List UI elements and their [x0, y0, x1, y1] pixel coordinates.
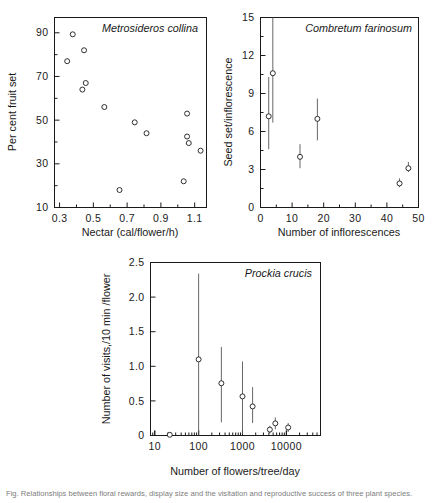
y-tick-label: 6 — [248, 125, 254, 137]
data-point — [117, 188, 122, 193]
data-point — [186, 141, 191, 146]
figure-container: 0.30.50.70.91.1 1030507090 Metrosideros … — [0, 0, 434, 503]
data-point — [102, 105, 107, 110]
data-point — [70, 32, 75, 37]
data-point — [406, 166, 411, 171]
data-point — [219, 381, 224, 386]
x-tick-label: 100 — [189, 440, 208, 452]
y-tick-label: 3 — [248, 163, 254, 175]
y-tick-label: 90 — [36, 26, 48, 38]
figure-caption: Fig. Relationships between floral reward… — [6, 489, 428, 501]
panel-c-title: Prockia crucis — [245, 267, 313, 279]
y-tick-label: 0 — [138, 429, 144, 441]
panel-c-tickmarks — [151, 263, 321, 436]
data-point — [144, 131, 149, 136]
panel-c-x-tick-labels: 10100100010000 — [149, 440, 302, 452]
panel-b-x-tick-labels: 01020304050 — [257, 212, 424, 224]
panel-c-x-axis-title: Number of flowers/tree/day — [170, 465, 300, 477]
panel-c-svg: 10100100010000 00.51.01.52.02.5 Prockia … — [88, 240, 348, 490]
x-tick-label: 0.9 — [153, 212, 169, 224]
x-tick-label: 0 — [257, 212, 263, 224]
x-tick-label: 10 — [286, 212, 298, 224]
x-tick-label: 30 — [349, 212, 361, 224]
y-tick-label: 12 — [242, 49, 254, 61]
panel-a-y-axis-title: Per cent fruit set — [6, 73, 18, 152]
panel-b-plot-frame — [261, 18, 419, 208]
panel-metrosideros-collina: 0.30.50.70.91.1 1030507090 Metrosideros … — [0, 0, 222, 240]
data-point — [181, 179, 186, 184]
data-point — [397, 181, 402, 186]
panel-c-data-points — [167, 274, 290, 438]
panel-a-x-axis-title: Nectar (cal/flower/h) — [82, 226, 179, 238]
panel-a-data-points — [65, 32, 203, 193]
panel-c-y-axis-title: Number of visits,/10 min /flower — [100, 273, 112, 424]
data-point — [270, 71, 275, 76]
panel-b-svg: 01020304050 03691215 Combretum farinosum… — [218, 0, 434, 240]
x-tick-label: 10000 — [271, 440, 302, 452]
panel-a-y-tick-labels: 1030507090 — [36, 26, 48, 213]
panel-b-title: Combretum farinosum — [305, 22, 412, 34]
panel-b-data-points — [266, 18, 411, 188]
data-point — [132, 120, 137, 125]
data-point — [185, 134, 190, 139]
y-tick-label: 0 — [248, 201, 254, 213]
x-tick-label: 0.5 — [85, 212, 101, 224]
y-tick-label: 30 — [36, 157, 48, 169]
data-point — [198, 148, 203, 153]
x-tick-label: 20 — [317, 212, 329, 224]
x-tick-label: 1000 — [230, 440, 255, 452]
data-point — [82, 48, 87, 53]
y-tick-label: 2.0 — [129, 291, 145, 303]
panel-c-y-tick-labels: 00.51.01.52.02.5 — [129, 256, 145, 441]
y-tick-label: 50 — [36, 114, 48, 126]
panel-a-title: Metrosideros collina — [102, 22, 198, 34]
data-point — [167, 432, 172, 437]
x-tick-label: 1.1 — [187, 212, 203, 224]
data-point — [266, 114, 271, 119]
panel-a-svg: 0.30.50.70.91.1 1030507090 Metrosideros … — [0, 0, 222, 240]
data-point — [315, 116, 320, 121]
data-point — [83, 81, 88, 86]
data-point — [250, 404, 255, 409]
y-tick-label: 15 — [242, 11, 254, 23]
panel-a-tickmarks — [55, 33, 195, 208]
y-tick-label: 1.5 — [129, 325, 145, 337]
x-tick-label: 0.7 — [119, 212, 135, 224]
data-point — [298, 154, 303, 159]
data-point — [80, 87, 85, 92]
data-point — [196, 357, 201, 362]
data-point — [273, 421, 278, 426]
panel-b-y-tick-labels: 03691215 — [242, 11, 254, 213]
y-tick-label: 10 — [36, 201, 48, 213]
y-tick-label: 0.5 — [129, 395, 145, 407]
x-tick-label: 50 — [412, 212, 424, 224]
y-tick-label: 1.0 — [129, 360, 145, 372]
x-tick-label: 10 — [149, 440, 161, 452]
panel-c-plot-frame — [151, 263, 321, 436]
data-point — [185, 111, 190, 116]
panel-a-x-tick-labels: 0.30.50.70.91.1 — [52, 212, 203, 224]
y-tick-label: 70 — [36, 70, 48, 82]
data-point — [65, 59, 70, 64]
panel-combretum-farinosum: 01020304050 03691215 Combretum farinosum… — [218, 0, 434, 240]
panel-prockia-crucis: 10100100010000 00.51.01.52.02.5 Prockia … — [88, 240, 348, 490]
x-tick-label: 0.3 — [52, 212, 68, 224]
panel-b-y-axis-title: Seed set/inflorescence — [222, 57, 234, 166]
data-point — [267, 427, 272, 432]
panel-b-x-axis-title: Number of inflorescences — [278, 226, 401, 238]
data-point — [240, 394, 245, 399]
data-point — [286, 425, 291, 430]
x-tick-label: 40 — [381, 212, 393, 224]
panel-b-tickmarks — [261, 18, 419, 208]
y-tick-label: 2.5 — [129, 256, 145, 268]
y-tick-label: 9 — [248, 87, 254, 99]
